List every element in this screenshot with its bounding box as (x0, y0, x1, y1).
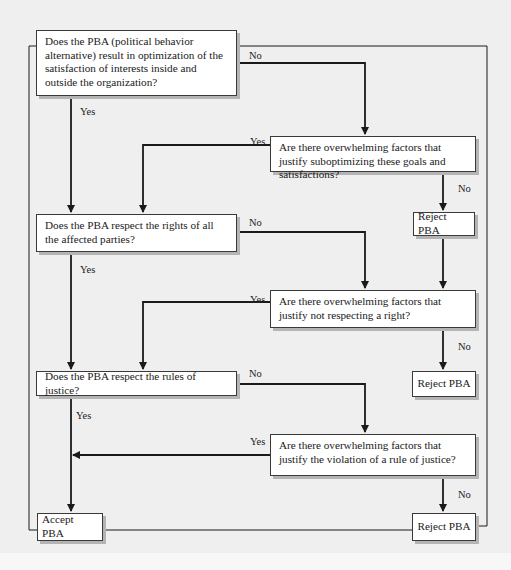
terminal-reject-1: Reject PBA (413, 212, 475, 236)
decision-box-justice-factors: Are there overwhelming factors that just… (270, 434, 476, 476)
decision-box-optimization: Does the PBA (political behavior alterna… (36, 30, 237, 96)
edge-label-q1-yes: Yes (80, 106, 95, 117)
edge-label-q2b-yes: Yes (250, 294, 265, 305)
bottom-margin (0, 553, 511, 570)
q2b-yes-arrow (143, 302, 270, 369)
terminal-text: Accept PBA (42, 513, 98, 540)
decision-box-rights-factors: Are there overwhelming factors that just… (270, 290, 476, 328)
edge-label-q3b-no: No (458, 489, 471, 500)
q1b-yes-arrow (143, 145, 270, 212)
edge-label-q1b-yes: Yes (250, 136, 265, 147)
edge-label-q2b-no: No (458, 341, 471, 352)
edge-label-q2-no: No (249, 217, 262, 228)
decision-text: Does the PBA respect the rules of justic… (45, 370, 228, 397)
decision-text: Does the PBA (political behavior alterna… (45, 35, 223, 88)
terminal-text: Reject PBA (417, 377, 470, 391)
decision-text: Does the PBA respect the rights of all t… (45, 219, 214, 245)
terminal-text: Reject PBA (417, 520, 470, 534)
decision-box-suboptimize-factors: Are there overwhelming factors that just… (270, 136, 476, 172)
decision-box-rights: Does the PBA respect the rights of all t… (36, 214, 237, 252)
terminal-accept: Accept PBA (37, 513, 103, 541)
q3-no-arrow (237, 384, 365, 432)
terminal-reject-3: Reject PBA (412, 513, 476, 541)
decision-text: Are there overwhelming factors that just… (279, 295, 441, 321)
outer-frame-left (29, 46, 37, 530)
flowchart-canvas: Does the PBA (political behavior alterna… (0, 0, 511, 570)
q2-no-arrow (237, 232, 365, 288)
decision-box-justice: Does the PBA respect the rules of justic… (36, 371, 237, 396)
terminal-reject-2: Reject PBA (412, 371, 476, 397)
edge-label-q3-yes: Yes (76, 410, 91, 421)
decision-text: Are there overwhelming factors that just… (279, 439, 456, 465)
terminal-text: Reject PBA (418, 210, 470, 237)
edge-label-q1b-no: No (458, 183, 471, 194)
edge-label-q3-no: No (249, 368, 262, 379)
edge-label-q3b-yes: Yes (250, 436, 265, 447)
edge-label-q2-yes: Yes (80, 264, 95, 275)
edge-label-q1-no: No (249, 50, 262, 61)
q1-no-arrow (237, 63, 365, 134)
